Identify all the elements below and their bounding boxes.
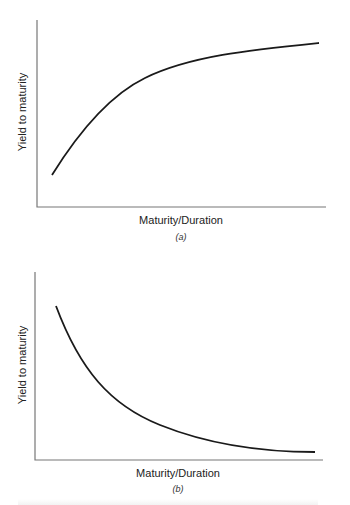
- chart-a-curve: [52, 43, 319, 175]
- chart-b-caption: (b): [173, 484, 184, 494]
- chart-a-axes: [37, 20, 326, 207]
- chart-a: Yield to maturity Maturity/Duration (a): [16, 20, 326, 242]
- chart-b-curve: [56, 306, 315, 452]
- chart-b: Yield to maturity Maturity/Duration (b): [16, 272, 323, 494]
- chart-a-xlabel: Maturity/Duration: [139, 214, 223, 226]
- figure: Yield to maturity Maturity/Duration (a) …: [0, 0, 350, 505]
- chart-b-xlabel: Maturity/Duration: [136, 467, 220, 479]
- cut-off-caption-line: [18, 499, 318, 505]
- chart-b-ylabel: Yield to maturity: [16, 325, 28, 404]
- chart-a-ylabel: Yield to maturity: [16, 72, 28, 151]
- chart-a-caption: (a): [176, 232, 187, 242]
